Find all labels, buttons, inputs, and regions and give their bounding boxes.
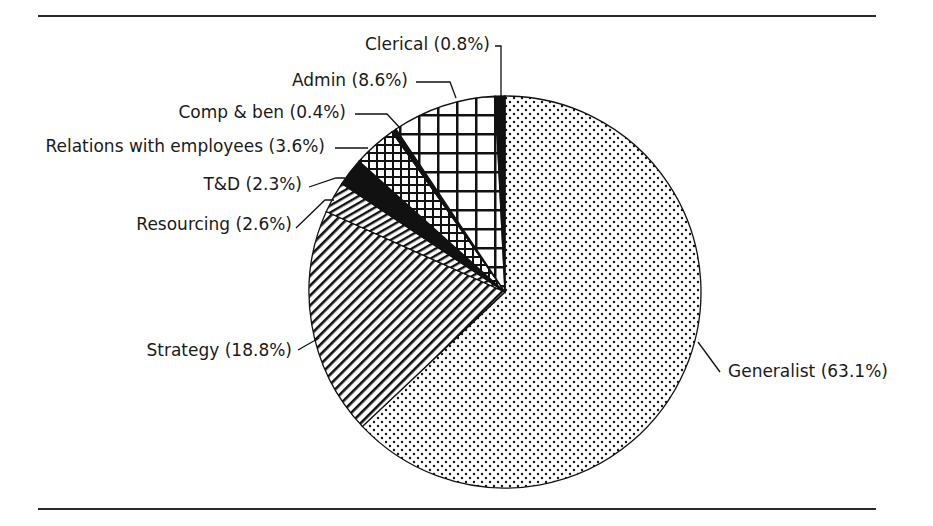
leader-line [416,82,456,98]
pie-slices [309,96,701,488]
leader-line [355,114,400,128]
leader-line [495,46,501,97]
slice-label: Generalist (63.1%) [728,361,888,381]
slice-label: Strategy (18.8%) [146,340,292,360]
slice-label: T&D (2.3%) [202,174,302,194]
pie-chart: Generalist (63.1%)Strategy (18.8%)Resour… [0,0,933,526]
slice-label: Comp & ben (0.4%) [178,102,346,122]
slice-label: Relations with employees (3.6%) [45,136,325,156]
slice-label: Clerical (0.8%) [365,34,490,54]
leader-line [698,342,720,372]
slice-label: Admin (8.6%) [292,70,408,90]
slice-label: Resourcing (2.6%) [136,214,292,234]
